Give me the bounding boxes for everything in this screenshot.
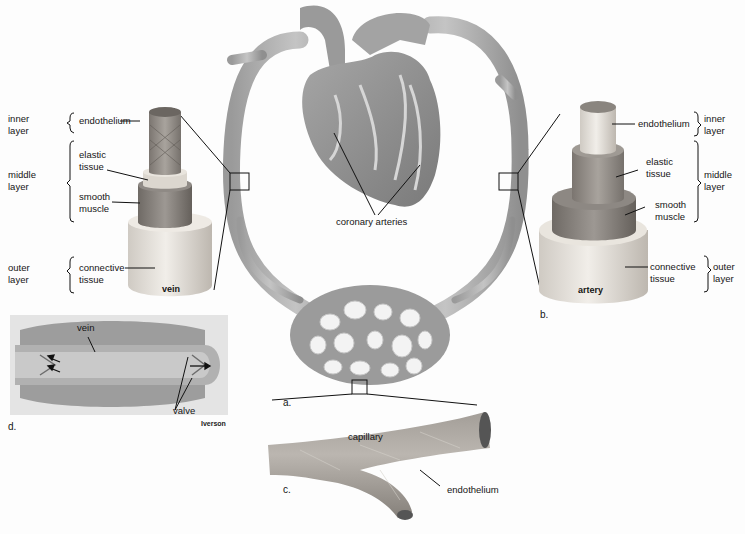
panel-d-letter: d.: [8, 421, 16, 432]
capillary-tube: [268, 412, 491, 520]
artery-outer-layer-label: outer layer: [713, 261, 735, 285]
valve-label: valve: [173, 405, 195, 417]
panel-a-letter: a.: [283, 397, 291, 408]
panel-b-letter: b.: [540, 309, 548, 320]
illustrator-credit: Iverson: [201, 420, 226, 427]
capillary-label: capillary: [348, 431, 383, 443]
vein-valve-panel: [10, 315, 228, 415]
vein-outer-layer-label: outer layer: [8, 262, 30, 286]
vein-braces: [67, 113, 74, 293]
artery-title: artery: [578, 284, 603, 296]
artery-middle-layer-label: middle layer: [704, 169, 732, 193]
vein-title: vein: [162, 283, 180, 295]
artery-connective-tissue-label: connective tissue: [650, 261, 695, 285]
vein-smooth-muscle-label: smooth muscle: [79, 191, 110, 215]
artery-smooth-muscle-label: smooth muscle: [655, 199, 686, 223]
artery-inner-layer-label: inner layer: [704, 113, 725, 137]
heart: [300, 6, 440, 207]
vein-elastic-tissue-label: elastic tissue: [79, 149, 106, 173]
circulatory-diagram: inner layer endothelium elastic tissue m…: [0, 0, 745, 534]
vein-middle-layer-label: middle layer: [8, 169, 36, 193]
artery-braces: [694, 112, 711, 292]
artery-elastic-tissue-label: elastic tissue: [646, 156, 673, 180]
vein-inner-layer-label: inner layer: [8, 113, 29, 137]
vein-connective-tissue-label: connective tissue: [79, 262, 124, 286]
artery-endothelium-label: endothelium: [638, 118, 690, 130]
valve-panel-vein-label: vein: [77, 322, 94, 334]
capillary-endothelium-label: endothelium: [447, 484, 499, 496]
artery-cylinder: [539, 101, 648, 304]
panel-c-letter: c.: [283, 484, 291, 495]
coronary-arteries-label: coronary arteries: [336, 216, 407, 228]
vein-endothelium-label: endothelium: [79, 115, 131, 127]
capillary-bed: [290, 285, 450, 394]
